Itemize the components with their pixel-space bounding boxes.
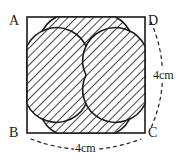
dimension-label-bottom: 4cm [74, 142, 97, 154]
geometry-figure: A D B C 4cm 4cm [0, 0, 184, 160]
petal-left [27, 28, 89, 123]
petal-right [83, 28, 145, 123]
vertex-label-d: D [148, 14, 158, 28]
vertex-label-b: B [9, 126, 18, 140]
vertex-label-a: A [9, 14, 19, 28]
vertex-label-c: C [148, 126, 157, 140]
dimension-label-right: 4cm [152, 69, 175, 81]
